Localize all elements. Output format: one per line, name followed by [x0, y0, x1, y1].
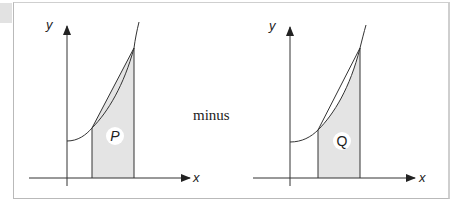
x-axis-label: x	[192, 170, 200, 185]
operator-text: minus	[193, 107, 230, 123]
region-label-q: Q	[337, 133, 348, 149]
left-panel: y x P	[29, 17, 200, 186]
shaded-region-q	[318, 48, 360, 178]
right-panel: y x Q	[253, 18, 426, 186]
diagram-canvas: y x P minus y x Q	[0, 0, 461, 207]
y-axis-label: y	[45, 17, 54, 32]
y-axis-label: y	[268, 18, 277, 33]
x-axis-label: x	[418, 170, 426, 185]
region-label-p: P	[110, 128, 120, 144]
